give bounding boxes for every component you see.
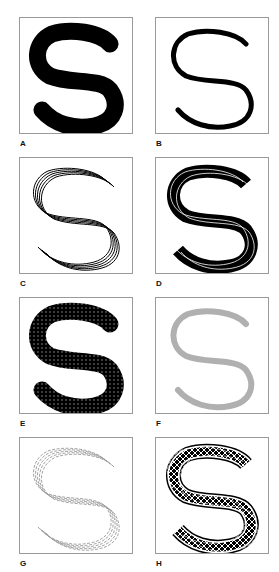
panel-label-b: B [156, 139, 162, 148]
panel-a [19, 17, 133, 134]
s-parallel-contours [20, 158, 132, 273]
panel-b [155, 17, 269, 134]
panel-h [155, 437, 269, 554]
panel-label-h: H [156, 559, 162, 568]
panel-f [155, 297, 269, 414]
panel-label-g: G [20, 559, 26, 568]
s-gray-dashed-contours [20, 438, 132, 553]
panel-label-f: F [156, 419, 161, 428]
s-dense-multiline [156, 158, 268, 273]
panel-g [19, 437, 133, 554]
s-dotted-texture [20, 298, 132, 413]
s-thin-solid [156, 18, 268, 133]
s-gray-stroke [156, 298, 268, 413]
panel-label-d: D [156, 279, 162, 288]
panel-e [19, 297, 133, 414]
panel-label-e: E [20, 419, 25, 428]
s-crosshatch [156, 438, 268, 553]
panel-label-c: C [20, 279, 26, 288]
panel-c [19, 157, 133, 274]
panel-label-a: A [20, 139, 26, 148]
panel-d [155, 157, 269, 274]
s-thick-solid [20, 18, 132, 133]
